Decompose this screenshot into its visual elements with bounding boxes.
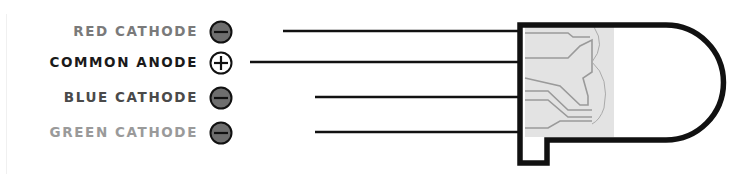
lead-frame bbox=[525, 27, 614, 137]
lead-lines bbox=[250, 31, 522, 132]
led-diagram bbox=[0, 0, 746, 182]
